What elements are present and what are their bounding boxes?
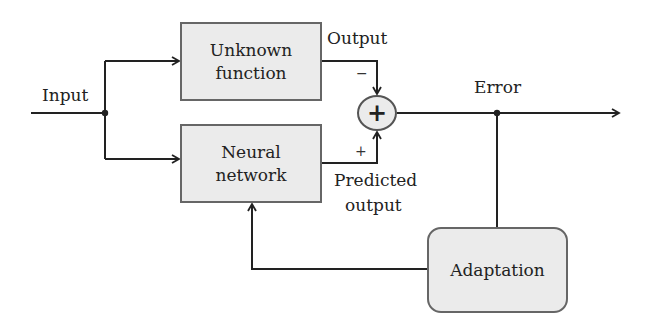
summing-junction: + xyxy=(357,95,397,131)
neural-network-line1: Neural xyxy=(215,141,286,164)
unknown-function-line1: Unknown xyxy=(210,39,292,62)
adaptation-label: Adaptation xyxy=(450,259,545,282)
minus-sign: − xyxy=(356,65,368,81)
error-label: Error xyxy=(474,76,521,98)
error-junction-dot xyxy=(494,110,500,116)
output-label: Output xyxy=(327,27,387,49)
unknown-function-block: Unknown function xyxy=(180,22,322,101)
adaptation-block: Adaptation xyxy=(427,227,568,313)
predicted-output-label-line2: output xyxy=(345,194,402,216)
neural-network-line2: network xyxy=(215,164,286,187)
predicted-output-label-line1: Predicted xyxy=(334,169,417,191)
input-label: Input xyxy=(42,84,88,106)
plus-icon: + xyxy=(367,101,387,125)
unknown-function-line2: function xyxy=(210,62,292,85)
arrow-predicted-to-sum xyxy=(322,132,377,163)
arrow-output-to-sum xyxy=(321,61,377,94)
plus-sign: + xyxy=(355,143,367,159)
neural-network-block: Neural network xyxy=(180,124,322,203)
input-junction-dot xyxy=(102,110,108,116)
